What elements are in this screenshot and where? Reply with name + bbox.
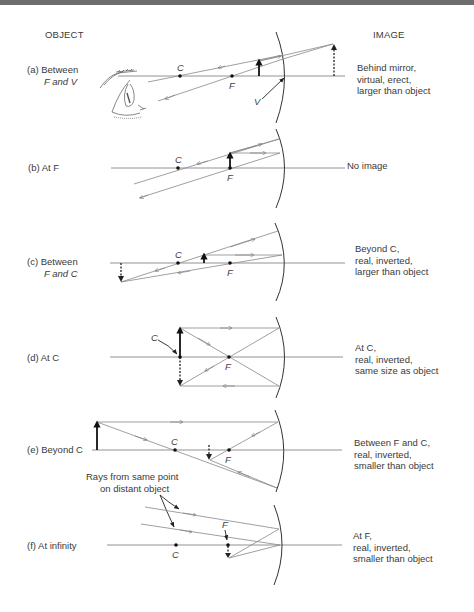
- point-label-c: C: [171, 436, 178, 447]
- concave-mirror: [275, 223, 284, 301]
- center-of-curvature-point: [178, 74, 182, 78]
- point-label-f: F: [225, 454, 232, 465]
- ray-arrow: [135, 436, 147, 440]
- focal-point: [227, 355, 231, 359]
- point-label-c: C: [175, 154, 182, 165]
- point-label-f: F: [229, 80, 236, 91]
- concave-mirror: [276, 129, 285, 208]
- focal-point: [228, 166, 232, 170]
- reflected-ray: [229, 545, 280, 558]
- case-d-diagram: C F: [110, 317, 343, 398]
- ray-arrow: [180, 530, 192, 532]
- ray-arrow: [197, 161, 208, 164]
- ray-arrow: [230, 239, 255, 247]
- reflected-ray: [210, 422, 278, 460]
- ray-arrow: [140, 195, 148, 198]
- concave-mirror-ray-diagram: C F V C F: [0, 0, 474, 612]
- reflected-ray: [121, 255, 282, 282]
- eye-icon: [100, 69, 146, 119]
- vertex-pointer-arrow: [262, 78, 284, 99]
- f-pointer-arrow: [225, 530, 227, 540]
- ray-arrow: [205, 366, 214, 371]
- center-of-curvature-point: [176, 261, 180, 265]
- case-c-diagram: C F: [110, 223, 345, 301]
- ray-arrow: [252, 432, 260, 436]
- concave-mirror: [276, 32, 285, 123]
- point-label-c: C: [151, 332, 158, 343]
- focal-point: [230, 74, 234, 78]
- ray-arrow: [198, 338, 210, 345]
- ray: [121, 231, 278, 282]
- point-label-v: V: [254, 96, 262, 107]
- ray-arrow: [259, 56, 281, 61]
- ray-arrow: [155, 268, 165, 271]
- focal-point: [227, 448, 231, 452]
- reflected-ray: [148, 55, 283, 82]
- focal-point: [228, 261, 232, 265]
- ray: [283, 44, 333, 59]
- center-of-curvature-point: [176, 166, 180, 170]
- annotation-line1: Rays from same point: [86, 471, 179, 482]
- center-of-curvature-point: [174, 543, 178, 547]
- case-a-diagram: C F V: [100, 32, 345, 123]
- case-f-diagram: Rays from same point on distant object C…: [86, 471, 342, 585]
- c-pointer-arrow: [158, 340, 177, 354]
- point-label-c: C: [172, 549, 179, 560]
- point-label-c: C: [177, 62, 184, 73]
- ray-arrow: [165, 95, 175, 99]
- point-label-f: F: [227, 172, 234, 183]
- incoming-ray: [141, 524, 280, 545]
- point-label-c: C: [175, 249, 182, 260]
- center-of-curvature-point: [178, 355, 182, 359]
- case-b-diagram: C F: [111, 129, 345, 208]
- point-label-f: F: [225, 361, 232, 372]
- focal-point: [226, 543, 230, 547]
- center-of-curvature-point: [173, 448, 177, 452]
- annotation-line2: on distant object: [100, 483, 170, 494]
- incoming-ray: [145, 507, 279, 529]
- image-arrowhead: [331, 44, 337, 50]
- point-label-f: F: [227, 267, 234, 278]
